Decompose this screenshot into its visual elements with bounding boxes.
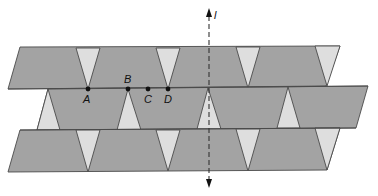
label-a: A (82, 93, 90, 105)
label-d: D (164, 93, 172, 105)
label-c: C (144, 93, 152, 105)
axis-label: l (214, 9, 217, 21)
point-d (166, 87, 171, 92)
point-a (86, 87, 91, 92)
top-row (8, 46, 340, 89)
bottom-row (8, 128, 340, 172)
arrow-down-icon (206, 179, 212, 188)
arrow-up-icon (206, 8, 212, 17)
point-c (146, 87, 151, 92)
label-b: B (124, 73, 131, 85)
point-b (126, 87, 131, 92)
tessellation-diagram: l A B C D (0, 0, 378, 196)
